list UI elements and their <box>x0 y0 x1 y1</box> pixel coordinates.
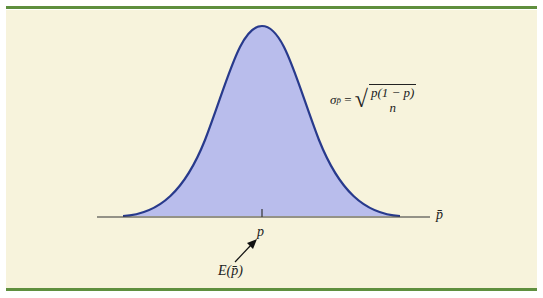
formula-denominator: n <box>389 100 396 115</box>
formula-numerator: p(1 − p) <box>371 85 414 100</box>
axis-label-pbar: p̄ <box>436 208 443 222</box>
formula-equals: = <box>341 92 355 108</box>
sqrt-icon: √ <box>355 86 368 113</box>
tick-label-p: p <box>257 225 264 239</box>
normal-curve-plot <box>0 0 543 298</box>
arrow-shaft <box>235 244 252 262</box>
expected-value-label: E(p̄) <box>218 264 243 278</box>
std-error-formula: σp̄ = √ p(1 − p) n <box>330 84 416 115</box>
formula-fraction: p(1 − p) n <box>369 84 416 115</box>
curve-fill <box>123 26 400 216</box>
